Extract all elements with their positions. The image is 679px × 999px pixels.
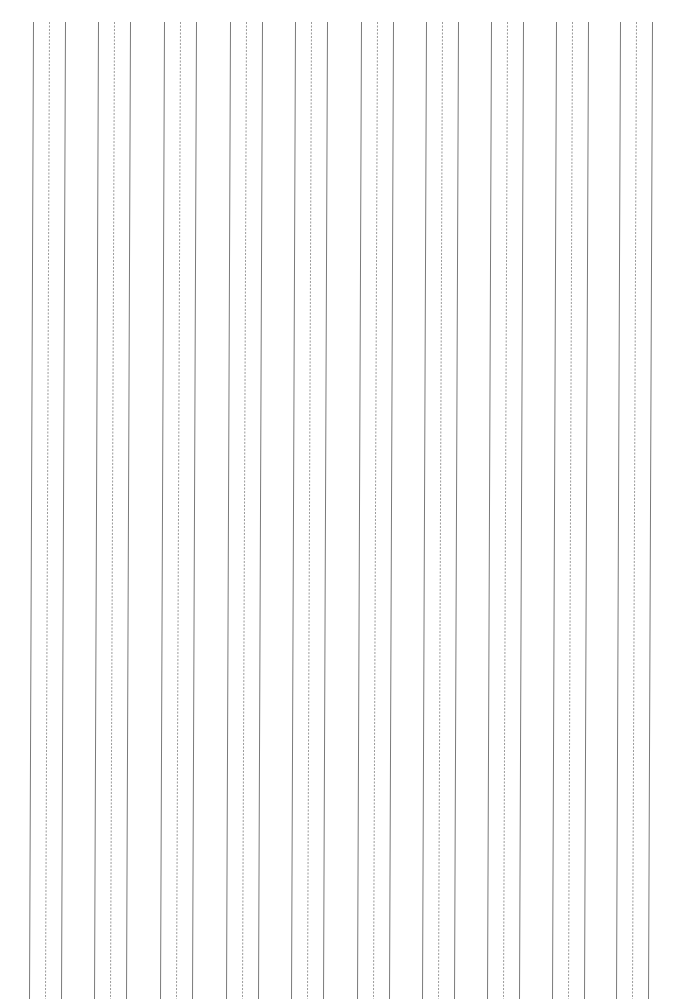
dashed-guide-line [633,22,637,999]
guide-group [95,22,131,999]
solid-guide-line [585,22,589,999]
guide-group [292,22,328,999]
guide-group [358,22,394,999]
dashed-guide-line [177,22,181,999]
solid-guide-line [193,22,197,999]
solid-guide-line [30,22,34,999]
guide-group [30,22,66,999]
solid-guide-line [358,22,362,999]
solid-guide-line [324,22,328,999]
solid-guide-line [62,22,66,999]
solid-guide-line [95,22,99,999]
guide-group [617,22,653,999]
solid-guide-line [292,22,296,999]
solid-guide-line [520,22,524,999]
dashed-guide-line [439,22,443,999]
guide-group [553,22,589,999]
solid-guide-line [553,22,557,999]
solid-guide-line [161,22,165,999]
solid-guide-line [488,22,492,999]
dashed-guide-line [374,22,378,999]
solid-guide-line [227,22,231,999]
dashed-guide-line [569,22,573,999]
dashed-guide-line [504,22,508,999]
dashed-guide-line [243,22,247,999]
guide-group [227,22,263,999]
dashed-guide-line [308,22,312,999]
dashed-guide-line [111,22,115,999]
solid-guide-line [390,22,394,999]
practice-paper [0,0,679,999]
solid-guide-line [259,22,263,999]
solid-guide-line [127,22,131,999]
solid-guide-line [617,22,621,999]
guide-group [423,22,459,999]
dashed-guide-line [46,22,50,999]
solid-guide-line [649,22,653,999]
solid-guide-line [455,22,459,999]
guide-group [161,22,197,999]
guide-group [488,22,524,999]
solid-guide-line [423,22,427,999]
